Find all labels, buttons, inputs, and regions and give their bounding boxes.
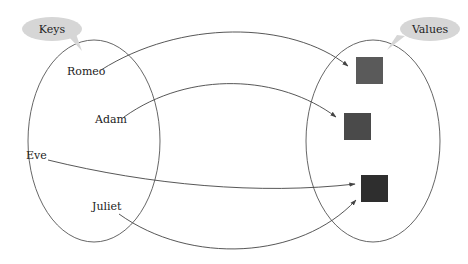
arrow-juliet-to-value-3: [119, 200, 356, 249]
key-romeo: Romeo: [67, 65, 106, 78]
arrow-adam-to-value-2: [124, 84, 336, 117]
values-callout-tail: [387, 35, 405, 50]
keys-callout: Keys: [22, 17, 82, 51]
key-juliet: Juliet: [91, 200, 122, 213]
arrow-romeo-to-value-1: [101, 32, 348, 70]
key-adam: Adam: [94, 113, 128, 126]
value-square-1: [356, 57, 383, 84]
keys-title: Keys: [39, 23, 66, 36]
arrow-eve-to-value-3: [48, 160, 355, 188]
values-callout: Values: [387, 17, 460, 50]
key-eve: Eve: [26, 149, 47, 162]
values-title: Values: [411, 23, 449, 36]
keys-values-map-diagram: Keys Values Romeo Adam Eve Juliet: [0, 0, 468, 264]
value-square-3: [361, 175, 388, 202]
value-square-2: [344, 113, 371, 140]
